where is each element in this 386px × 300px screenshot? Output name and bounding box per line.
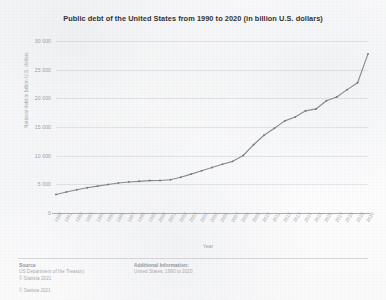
data-point-marker bbox=[76, 189, 78, 191]
y-tick-label: 25 000 bbox=[35, 67, 51, 73]
data-point-marker bbox=[336, 96, 338, 98]
series-markers bbox=[55, 53, 369, 195]
y-tick-label: 30 000 bbox=[35, 38, 51, 44]
y-tick-label: 20 000 bbox=[35, 95, 51, 101]
data-point-marker bbox=[138, 180, 140, 182]
source-copyright-line: © Statista 2021 bbox=[19, 276, 84, 282]
y-tick-label: 0 bbox=[48, 210, 51, 216]
footer-divider bbox=[18, 258, 368, 259]
y-tick-label: 5 000 bbox=[38, 181, 51, 187]
data-point-marker bbox=[325, 100, 327, 102]
data-point-marker bbox=[117, 182, 119, 184]
data-point-marker bbox=[211, 167, 213, 169]
data-point-marker bbox=[253, 144, 255, 146]
data-point-marker bbox=[315, 108, 317, 110]
y-axis-title: National debt in billion U.S. dollars bbox=[24, 52, 29, 128]
x-axis-ticks: 1990199119921993199419951996199719981999… bbox=[56, 216, 368, 242]
x-axis-title: Year bbox=[0, 243, 386, 249]
chart-page: Public debt of the United States from 19… bbox=[0, 0, 386, 300]
data-point-marker bbox=[97, 185, 99, 187]
y-tick-label: 10 000 bbox=[35, 153, 51, 159]
data-point-marker bbox=[159, 180, 161, 182]
data-point-marker bbox=[149, 180, 151, 182]
data-point-marker bbox=[357, 82, 359, 84]
data-point-marker bbox=[367, 53, 369, 55]
data-point-marker bbox=[232, 160, 234, 162]
data-point-marker bbox=[128, 181, 130, 183]
page-title: Public debt of the United States from 19… bbox=[0, 14, 386, 24]
data-point-marker bbox=[190, 173, 192, 175]
data-point-marker bbox=[65, 191, 67, 193]
series-line bbox=[56, 54, 368, 195]
debt-line-series bbox=[56, 41, 368, 213]
source-block: Source US Department of the Treasury © S… bbox=[19, 263, 84, 282]
additional-information-line: United States; 1990 to 2020 bbox=[134, 269, 193, 275]
copyright-notice: © Statista 2021 bbox=[19, 288, 51, 293]
data-point-marker bbox=[169, 179, 171, 181]
source-line: US Department of the Treasury bbox=[19, 269, 84, 275]
data-point-marker bbox=[55, 194, 57, 196]
data-point-marker bbox=[263, 134, 265, 136]
data-point-marker bbox=[107, 184, 109, 186]
data-point-marker bbox=[242, 155, 244, 157]
data-point-marker bbox=[221, 163, 223, 165]
plot-area: 05 00010 00015 00020 00025 00030 000 bbox=[56, 41, 368, 213]
data-point-marker bbox=[273, 127, 275, 129]
additional-information-block: Additional Information: United States; 1… bbox=[134, 263, 193, 276]
data-point-marker bbox=[294, 116, 296, 118]
data-point-marker bbox=[86, 187, 88, 189]
data-point-marker bbox=[346, 89, 348, 91]
data-point-marker bbox=[180, 176, 182, 178]
data-point-marker bbox=[201, 170, 203, 172]
y-tick-label: 15 000 bbox=[35, 124, 51, 130]
data-point-marker bbox=[305, 110, 307, 112]
data-point-marker bbox=[284, 120, 286, 122]
